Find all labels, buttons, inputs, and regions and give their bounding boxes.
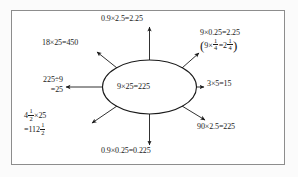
top-right-prefix: 9× [204, 41, 212, 50]
top-right-mid: =2 [219, 41, 227, 50]
node-label-bottom-left-line1: 4 1 2 ×25 [24, 108, 46, 122]
node-label-right: 3×5=15 [207, 79, 231, 89]
arrow-top-left [97, 52, 117, 68]
node-label-bottom-right: 90×2.5=225 [197, 122, 235, 132]
bottom-left-suffix: ×25 [34, 111, 46, 120]
arrow-top-right [182, 53, 199, 68]
node-label-top: 0.9×2.5=2.25 [101, 14, 143, 24]
center-node-label: 9×25=225 [117, 82, 150, 92]
node-label-left: 225÷9 =25 [25, 75, 63, 95]
node-label-top-right-line1: 9×0.25=2.25 [200, 28, 240, 38]
node-label-bottom-left: 4 1 2 ×25 =112 1 2 [24, 108, 46, 136]
node-label-top-right-line2: (9× 1 4 =2 1 4 ) [200, 38, 240, 52]
fraction-denominator: 4 [213, 44, 218, 52]
arrow-bottom-left [92, 106, 117, 123]
diagram-canvas: 9×25=225 0.9×2.5=2.25 18×25=450 9×0.25=2… [0, 0, 298, 177]
fraction-one-half-b: 1 2 [40, 122, 45, 136]
node-label-left-line2: =25 [25, 85, 63, 95]
fraction-one-quarter-b: 1 4 [227, 38, 232, 52]
fraction-one-half-a: 1 2 [28, 108, 33, 122]
bottom-left-prefix: 4 [24, 111, 28, 120]
node-label-bottom-left-line2: =112 1 2 [24, 122, 46, 136]
node-label-top-right: 9×0.25=2.25 (9× 1 4 =2 1 4 ) [200, 28, 240, 52]
node-label-top-left: 18×25=450 [42, 38, 78, 48]
fraction-denominator: 2 [40, 129, 45, 137]
fraction-one-quarter-a: 1 4 [213, 38, 218, 52]
close-paren: ) [233, 42, 237, 50]
arrow-bottom-right [182, 106, 205, 120]
fraction-denominator: 4 [227, 44, 232, 52]
node-label-left-line1: 225÷9 [25, 75, 63, 85]
node-label-bottom: 0.9×0.25=0.225 [101, 146, 151, 156]
fraction-denominator: 2 [28, 115, 33, 123]
bottom-left-line2-prefix: =112 [24, 125, 40, 134]
